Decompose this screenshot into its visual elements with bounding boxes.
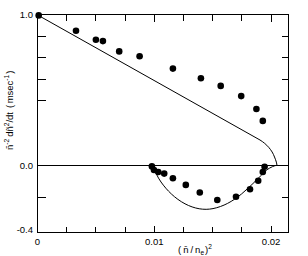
data-point: [214, 197, 221, 204]
y-axis-title: n̄-2dñ2/dt(msec-1): [3, 71, 15, 150]
data-point: [100, 38, 107, 45]
x-axis-title: (n̄/ne)2: [178, 243, 212, 256]
data-point: [35, 12, 42, 19]
scatter-plot-figure: 1.0 0.0 -0.4 0 0.01 0.02 (n̄/ne)2 n̄-2dn…: [0, 0, 308, 256]
upper-branch-fit-curve: [39, 16, 278, 166]
x-tick-label-0: 0: [35, 236, 40, 247]
x-axis-ticks-top: [67, 15, 271, 22]
data-point: [170, 65, 177, 72]
figure-container: 1.0 0.0 -0.4 0 0.01 0.02 (n̄/ne)2 n̄-2dn…: [0, 0, 308, 256]
data-point: [170, 175, 177, 182]
data-point: [183, 182, 190, 189]
data-point: [116, 48, 123, 55]
data-point: [136, 53, 143, 60]
upper-branch-points: [35, 12, 266, 124]
data-point: [161, 170, 168, 177]
data-point: [260, 118, 267, 125]
y-axis-ticks-right: [282, 36, 289, 197]
data-point: [217, 83, 224, 90]
data-point: [197, 189, 204, 196]
data-point: [155, 169, 162, 176]
svg-text:(n̄/ne)2: (n̄/ne)2: [178, 243, 212, 256]
data-point: [198, 75, 205, 82]
x-tick-label-0.02: 0.02: [262, 236, 281, 247]
data-point: [255, 177, 262, 184]
y-axis-ticks: [38, 15, 46, 233]
lower-branch-fit-curve: [153, 165, 277, 209]
x-tick-label-0.01: 0.01: [145, 236, 164, 247]
x-axis-ticks: [38, 226, 272, 233]
lower-branch-points: [149, 163, 268, 203]
data-point: [93, 36, 100, 43]
data-point: [238, 93, 245, 100]
data-point: [73, 28, 80, 35]
data-point: [261, 164, 268, 171]
data-point: [233, 194, 240, 201]
y-tick-label-1.0: 1.0: [20, 9, 33, 20]
plot-axes: [37, 14, 289, 233]
svg-text:n̄-2dñ2/dt(msec-1): n̄-2dñ2/dt(msec-1): [3, 71, 15, 150]
y-tick-label-0.0: 0.0: [20, 160, 33, 171]
y-tick-label--0.4: -0.4: [17, 224, 33, 235]
data-point: [247, 186, 254, 193]
data-point: [253, 106, 260, 113]
